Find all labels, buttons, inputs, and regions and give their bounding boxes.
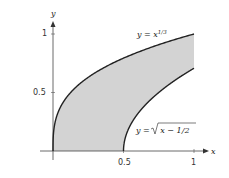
chart-figure: 0.5 1 0.5 1 x y y = x1/3 y = x − 1/2 [0,0,229,178]
x-axis-arrow-icon [203,149,209,154]
curve1-label: y = x1/3 [136,29,167,39]
y-tick-label-1: 1 [42,29,47,38]
y-tick-label-0.5: 0.5 [33,88,46,97]
x-tick-label-0.5: 0.5 [118,158,131,167]
y-axis-label: y [50,9,56,18]
curve2-label: y = x − 1/2 [135,126,190,135]
plot-area: 0.5 1 0.5 1 x y y = x1/3 y = x − 1/2 [0,0,229,178]
y-axis-arrow-icon [51,21,56,27]
x-axis-label: x [211,147,216,156]
x-tick-label-1: 1 [191,158,196,167]
